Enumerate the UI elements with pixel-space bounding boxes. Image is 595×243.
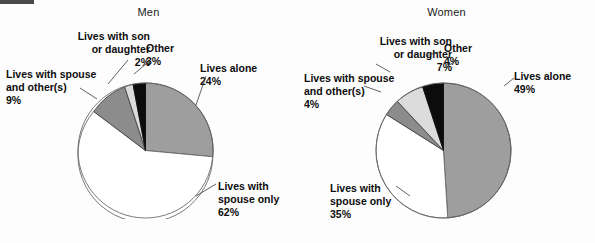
figure-canvas: Men Lives alone 24% Other 3% Lives with … [0, 0, 595, 243]
leader-lines-women [298, 0, 595, 243]
leader-lines-men [0, 0, 298, 243]
